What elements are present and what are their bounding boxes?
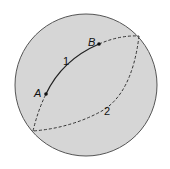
arc-2-label: 2: [104, 105, 110, 117]
arc-1-label: 1: [63, 55, 69, 67]
point-a-label: A: [33, 87, 41, 99]
point-b-label: B: [88, 36, 95, 48]
sphere: [15, 14, 157, 156]
point-b-marker: [97, 42, 101, 46]
sphere-diagram: A B 1 2: [0, 0, 170, 169]
point-a-marker: [44, 92, 48, 96]
